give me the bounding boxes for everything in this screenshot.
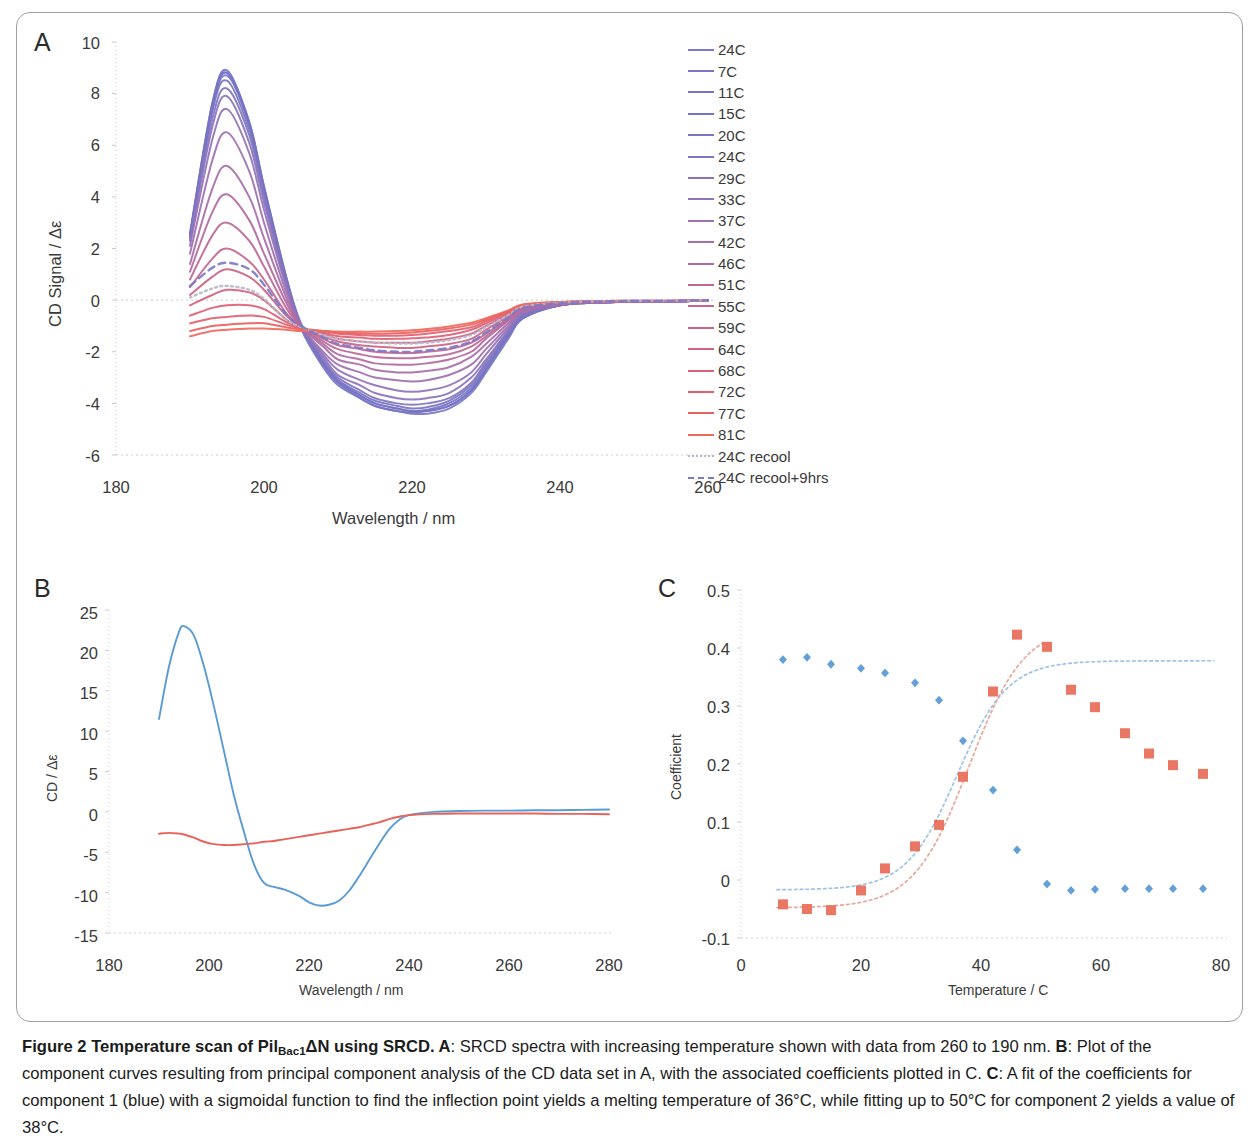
legend-item-24c[interactable]: 24C: [688, 39, 828, 60]
legend-item-51c[interactable]: 51C: [688, 274, 828, 295]
legend-label: 81C: [718, 427, 746, 442]
legend-item-20c[interactable]: 20C: [688, 125, 828, 146]
legend-item-55c[interactable]: 55C: [688, 296, 828, 317]
legend-swatch-icon: [688, 391, 714, 393]
legend-swatch-icon: [688, 477, 714, 479]
legend-item-24c-recool[interactable]: 24C recool: [688, 445, 828, 466]
legend-label: 11C: [718, 85, 744, 100]
legend-swatch-icon: [688, 241, 714, 243]
legend-item-15c[interactable]: 15C: [688, 103, 828, 124]
legend-swatch-icon: [688, 455, 714, 457]
legend-label: 51C: [718, 277, 746, 292]
panel-b-xtick-280: 280: [579, 956, 639, 975]
legend-swatch-icon: [688, 113, 714, 115]
legend-swatch-icon: [688, 370, 714, 372]
panel-b-xtick-240: 240: [379, 956, 439, 975]
panel-c-plot: [648, 570, 1248, 950]
legend-label: 42C: [718, 235, 746, 250]
legend-item-77c[interactable]: 77C: [688, 403, 828, 424]
legend-swatch-icon: [688, 91, 714, 93]
panel-c-xtick-40: 40: [951, 956, 1011, 975]
panel-b-xtick-200: 200: [179, 956, 239, 975]
panel-a-xlabel: Wavelength / nm: [332, 509, 455, 528]
legend-label: 46C: [718, 256, 746, 271]
legend-swatch-icon: [688, 70, 714, 72]
panel-b-xlabel: Wavelength / nm: [299, 982, 404, 998]
caption-a-text: : SRCD spectra with increasing temperatu…: [451, 1037, 1051, 1056]
legend-label: 15C: [718, 106, 746, 121]
legend-item-72c[interactable]: 72C: [688, 381, 828, 402]
legend-item-24c[interactable]: 24C: [688, 146, 828, 167]
legend-item-7c[interactable]: 7C: [688, 60, 828, 81]
legend-item-33c[interactable]: 33C: [688, 189, 828, 210]
legend-swatch-icon: [688, 198, 714, 200]
panel-a-legend: 24C7C11C15C20C24C29C33C37C42C46C51C55C59…: [688, 39, 828, 488]
legend-swatch-icon: [688, 327, 714, 329]
panel-a: A 10 8 6 4 2 0 -2 -4 -6 CD Signal / Δε 1…: [16, 12, 876, 532]
legend-label: 20C: [718, 128, 746, 143]
panel-c-xtick-20: 20: [831, 956, 891, 975]
legend-item-37c[interactable]: 37C: [688, 210, 828, 231]
legend-label: 55C: [718, 299, 746, 314]
panel-c-xtick-0: 0: [711, 956, 771, 975]
legend-label: 33C: [718, 192, 746, 207]
figure-caption: Figure 2 Temperature scan of PilBac1ΔN u…: [22, 1034, 1238, 1142]
legend-swatch-icon: [688, 49, 714, 51]
legend-item-11c[interactable]: 11C: [688, 82, 828, 103]
panel-b: B 25 20 15 10 5 0 -5 -10 -15 CD / Δε 180…: [16, 570, 656, 1010]
legend-swatch-icon: [688, 412, 714, 414]
legend-label: 72C: [718, 384, 746, 399]
caption-figure-tail: ΔN using SRCD.: [306, 1037, 435, 1056]
legend-swatch-icon: [688, 284, 714, 286]
legend-swatch-icon: [688, 305, 714, 307]
legend-label: 7C: [718, 64, 737, 79]
panel-b-plot: [16, 570, 636, 950]
legend-item-68c[interactable]: 68C: [688, 360, 828, 381]
panel-a-plot: [16, 12, 716, 472]
legend-label: 59C: [718, 320, 746, 335]
legend-label: 24C: [718, 149, 746, 164]
panel-c-xlabel: Temperature / C: [948, 982, 1048, 998]
legend-item-42c[interactable]: 42C: [688, 232, 828, 253]
figure-page: A 10 8 6 4 2 0 -2 -4 -6 CD Signal / Δε 1…: [0, 0, 1257, 1147]
panel-b-xtick-180: 180: [79, 956, 139, 975]
panel-b-xtick-260: 260: [479, 956, 539, 975]
legend-swatch-icon: [688, 434, 714, 436]
legend-item-29c[interactable]: 29C: [688, 167, 828, 188]
panel-b-xtick-220: 220: [279, 956, 339, 975]
legend-label: 29C: [718, 171, 746, 186]
panel-a-xtick-200: 200: [232, 478, 296, 497]
legend-swatch-icon: [688, 220, 714, 222]
legend-label: 24C recool: [718, 449, 791, 464]
legend-item-81c[interactable]: 81C: [688, 424, 828, 445]
legend-swatch-icon: [688, 156, 714, 158]
legend-item-64c[interactable]: 64C: [688, 338, 828, 359]
caption-subscript: Bac1: [278, 1045, 306, 1057]
legend-label: 64C: [718, 342, 746, 357]
panel-a-xtick-240: 240: [528, 478, 592, 497]
panel-c-xtick-60: 60: [1071, 956, 1131, 975]
caption-figure-lead: Figure 2 Temperature scan of Pil: [22, 1037, 278, 1056]
caption-b-label: B: [1056, 1037, 1068, 1056]
panel-a-xtick-180: 180: [84, 478, 148, 497]
panel-a-xtick-220: 220: [380, 478, 444, 497]
legend-swatch-icon: [688, 348, 714, 350]
panel-c-xtick-80: 80: [1191, 956, 1251, 975]
legend-label: 68C: [718, 363, 746, 378]
legend-label: 37C: [718, 213, 746, 228]
legend-label: 24C recool+9hrs: [718, 470, 828, 485]
caption-a-label: A: [439, 1037, 451, 1056]
panel-c: C 0.5 0.4 0.3 0.2 0.1 0 -0.1 Coefficient…: [648, 570, 1248, 1010]
legend-item-59c[interactable]: 59C: [688, 317, 828, 338]
legend-swatch-icon: [688, 177, 714, 179]
legend-item-46c[interactable]: 46C: [688, 253, 828, 274]
legend-swatch-icon: [688, 134, 714, 136]
legend-swatch-icon: [688, 263, 714, 265]
caption-c-label: C: [986, 1064, 998, 1083]
legend-label: 77C: [718, 406, 746, 421]
legend-item-24c-recool-9hrs[interactable]: 24C recool+9hrs: [688, 467, 828, 488]
legend-label: 24C: [718, 42, 746, 57]
